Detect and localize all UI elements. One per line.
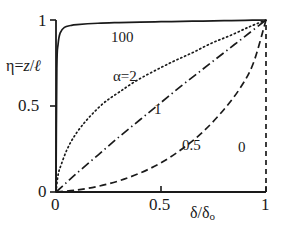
x-axis-title: δ/δo	[190, 205, 215, 222]
curve-label-0: 0	[238, 140, 246, 155]
y-tick-label-1: 1	[38, 12, 47, 29]
curve-label-1: 1	[154, 102, 162, 117]
y-tick-label-0: 0	[38, 183, 47, 200]
curve-label-alpha-2: α=2	[113, 69, 137, 84]
x-axis-title-subscript: o	[210, 210, 216, 222]
x-tick-label-0-5: 0.5	[149, 196, 170, 213]
y-axis-title: η=z/ℓ	[6, 58, 41, 74]
x-tick-label-1: 1	[261, 196, 270, 213]
curve-label-100: 100	[111, 30, 134, 45]
y-tick-label-0-5: 0.5	[18, 97, 39, 114]
chart-figure: 1 0.5 0 0 0.5 1 η=z/ℓ δ/δo 100 α=2 1 0.5…	[0, 0, 296, 236]
x-axis-title-main: δ/δ	[190, 204, 210, 221]
x-tick-label-0: 0	[51, 196, 60, 213]
curve-label-0-5: 0.5	[182, 138, 201, 153]
y-axis-title-ell: ℓ	[34, 57, 41, 74]
